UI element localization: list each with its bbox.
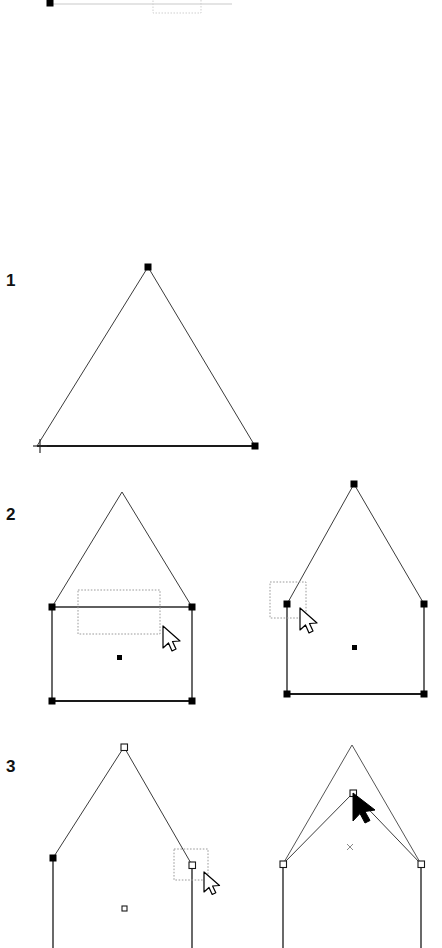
node-handle-base-right[interactable] bbox=[421, 691, 427, 697]
arrow-cursor-outline bbox=[163, 626, 180, 651]
selection-marquee[interactable] bbox=[270, 582, 306, 618]
node-handle-base-left[interactable] bbox=[284, 691, 290, 697]
roof-left-edge bbox=[287, 484, 354, 604]
step-label-2: 2 bbox=[6, 506, 15, 523]
arrow-cursor-outline bbox=[300, 608, 317, 633]
roof-right-edge bbox=[124, 747, 192, 865]
node-handle-shoulder-right[interactable] bbox=[189, 604, 195, 610]
node-handle-shoulder-left[interactable] bbox=[50, 855, 56, 861]
panel-1-triangle bbox=[33, 264, 258, 453]
roof-left-edge bbox=[283, 793, 353, 864]
panel-2-right-house bbox=[270, 481, 427, 697]
arrow-cursor-filled bbox=[353, 793, 375, 823]
selection-marquee[interactable] bbox=[78, 590, 160, 634]
roof-left-edge bbox=[53, 747, 124, 858]
center-origin-dot bbox=[352, 645, 357, 650]
node-handle-bottom-right[interactable] bbox=[252, 443, 258, 449]
node-handle-apex[interactable] bbox=[121, 744, 128, 751]
node-handle-shoulder-left[interactable] bbox=[280, 861, 287, 868]
panel-3-left-house bbox=[50, 744, 220, 948]
roof-left-edge bbox=[52, 492, 122, 607]
node-handle-shoulder-left[interactable] bbox=[49, 604, 55, 610]
node-handle-base-right[interactable] bbox=[189, 698, 195, 704]
node-handle-shoulder-right[interactable] bbox=[421, 601, 427, 607]
figure-root: 1 2 3 bbox=[0, 0, 442, 948]
ghost-roof-right-edge bbox=[352, 745, 421, 864]
center-origin-dot bbox=[122, 906, 127, 911]
fragment-handle bbox=[47, 0, 53, 6]
triangle-right-edge bbox=[148, 267, 255, 446]
node-handle-apex[interactable] bbox=[145, 264, 151, 270]
step-label-1: 1 bbox=[6, 272, 15, 289]
node-handle-shoulder-right[interactable] bbox=[418, 861, 425, 868]
node-handle-shoulder-right[interactable] bbox=[189, 862, 196, 869]
arrow-cursor-outline bbox=[204, 872, 220, 895]
step-label-3: 3 bbox=[6, 758, 15, 775]
node-handle-apex-dragged[interactable] bbox=[350, 790, 357, 797]
center-origin-dot bbox=[117, 655, 122, 660]
selection-marquee[interactable] bbox=[174, 849, 208, 880]
ghost-roof-left-edge bbox=[283, 745, 352, 864]
roof-right-edge bbox=[122, 492, 192, 607]
center-x-mark-icon bbox=[347, 844, 353, 850]
node-handle-base-left[interactable] bbox=[49, 698, 55, 704]
roof-right-edge bbox=[354, 484, 424, 604]
node-handle-apex[interactable] bbox=[351, 481, 357, 487]
node-handle-shoulder-left[interactable] bbox=[284, 601, 290, 607]
fragment-marquee bbox=[153, 0, 201, 13]
clipped-figure-above bbox=[47, 0, 232, 13]
roof-right-edge bbox=[353, 793, 421, 864]
crosshair-icon bbox=[33, 439, 47, 453]
panel-2-left-house bbox=[49, 492, 195, 704]
panel-3-right-house bbox=[280, 745, 425, 948]
triangle-left-edge bbox=[37, 267, 148, 446]
figure-canvas bbox=[0, 0, 442, 948]
